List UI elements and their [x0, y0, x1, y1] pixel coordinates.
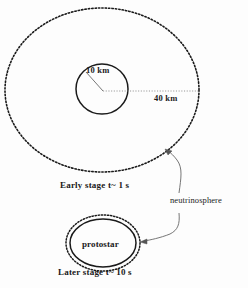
- core-radius-label: 10 km: [86, 66, 109, 75]
- later-stage-caption: Later stage t~ 10 s: [58, 268, 132, 277]
- neutrinosphere-callout-label: neutrinosphere: [170, 196, 222, 205]
- early-stage-caption: Early stage t~ 1 s: [60, 181, 129, 190]
- callout-arrow-upper: [168, 151, 181, 193]
- figure-canvas: 10 km 40 km Early stage t~ 1 s neutrinos…: [0, 0, 248, 288]
- diagram-vector-layer: [0, 0, 248, 288]
- protostar-label: protostar: [82, 240, 119, 249]
- callout-arrowhead-lower: [140, 239, 147, 244]
- neutrinosphere-radius-label: 40 km: [154, 94, 177, 103]
- callout-arrow-lower: [144, 213, 179, 241]
